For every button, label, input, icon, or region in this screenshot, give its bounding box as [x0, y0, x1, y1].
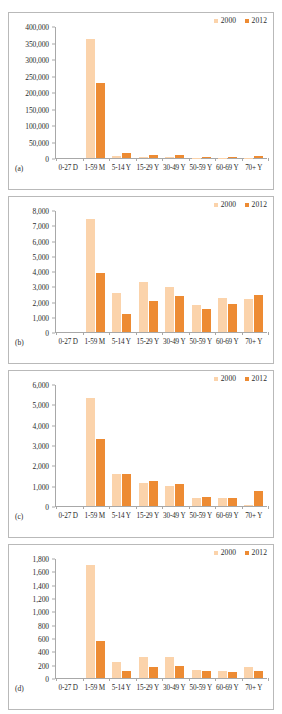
legend-swatch-icon: [245, 377, 249, 381]
x-axis-tick-mark: [189, 506, 190, 509]
y-axis-tick-label: 6,000: [33, 237, 49, 246]
chart-legend: 20002012: [214, 17, 267, 25]
bar-2012: [202, 671, 211, 678]
bar-groups: [56, 27, 267, 158]
x-axis-tick-mark: [162, 158, 163, 161]
chart-panel-c: 2000201201,0002,0003,0004,0005,0006,0000…: [8, 370, 274, 538]
x-axis-tick-mark: [83, 158, 84, 161]
x-axis-label: 60-69 Y: [214, 512, 241, 520]
legend-label: 2000: [221, 17, 236, 25]
bar-groups: [56, 559, 267, 678]
bar-2012: [149, 301, 158, 332]
x-axis-labels: 0-27 D1-59 M5-14 Y15-29 Y30-49 Y50-59 Y6…: [55, 164, 267, 172]
legend-swatch-icon: [214, 19, 218, 23]
y-axis-tick-label: 2,000: [33, 298, 49, 307]
bar-group: [109, 385, 135, 506]
bar-group: [241, 27, 267, 158]
y-axis-tick-label: 1,400: [33, 581, 49, 590]
bar-group: [214, 27, 240, 158]
plot-area: [55, 385, 267, 507]
x-axis-ticks: [56, 158, 267, 162]
x-axis-tick-mark: [215, 332, 216, 335]
bar-2012: [96, 83, 105, 158]
bar-2012: [175, 484, 184, 506]
y-axis-tick-label: 150,000: [25, 105, 49, 114]
bar-2000: [192, 305, 201, 332]
bar-2000: [112, 474, 121, 506]
x-axis-tick-mark: [136, 506, 137, 509]
legend-label: 2012: [252, 549, 267, 557]
bar-group: [56, 385, 82, 506]
x-axis-label: 60-69 Y: [214, 684, 241, 692]
y-axis-tick-label: 50,000: [29, 138, 49, 147]
x-axis-label: 15-29 Y: [135, 338, 162, 346]
x-axis-label: 50-59 Y: [188, 512, 215, 520]
bar-2012: [96, 641, 105, 678]
plot-area: [55, 559, 267, 679]
x-axis-tick-mark: [109, 506, 110, 509]
bar-2000: [139, 483, 148, 506]
y-axis-tick-label: 1,200: [33, 595, 49, 604]
bar-group: [162, 27, 188, 158]
bar-group: [56, 559, 82, 678]
y-axis-tick-label: 2,000: [33, 462, 49, 471]
y-axis-tick-label: 0: [45, 329, 49, 338]
bar-group: [241, 211, 267, 332]
y-axis-tick-label: 5,000: [33, 401, 49, 410]
x-axis-label: 0-27 D: [55, 684, 82, 692]
bar-2000: [218, 671, 227, 678]
bar-2012: [96, 439, 105, 507]
x-axis-labels: 0-27 D1-59 M5-14 Y15-29 Y30-49 Y50-59 Y6…: [55, 684, 267, 692]
y-axis-tick-label: 1,000: [33, 608, 49, 617]
bar-groups: [56, 211, 267, 332]
x-axis-tick-mark: [56, 506, 57, 509]
y-axis-tick-label: 3,000: [33, 442, 49, 451]
x-axis-tick-mark: [268, 678, 269, 681]
x-axis-label: 5-14 Y: [108, 512, 135, 520]
bar-group: [109, 27, 135, 158]
bar-2000: [112, 293, 121, 332]
bar-group: [82, 385, 108, 506]
x-axis-label: 30-49 Y: [161, 684, 188, 692]
x-axis-tick-mark: [136, 332, 137, 335]
bar-group: [162, 559, 188, 678]
legend-entry-2000: 2000: [214, 17, 236, 25]
legend-entry-2012: 2012: [245, 17, 267, 25]
x-axis-tick-mark: [83, 332, 84, 335]
x-axis-tick-mark: [109, 332, 110, 335]
bar-2012: [228, 304, 237, 332]
y-axis: 01,0002,0003,0004,0005,0006,0007,0008,00…: [11, 211, 51, 333]
x-axis-tick-mark: [109, 678, 110, 681]
plot-area: [55, 27, 267, 159]
bar-group: [188, 559, 214, 678]
chart-panel-b: 2000201201,0002,0003,0004,0005,0006,0007…: [8, 196, 274, 364]
y-axis-tick-label: 0: [45, 675, 49, 684]
figure-page: 20002012050,000100,000150,000200,000250,…: [0, 12, 282, 714]
x-axis-tick-mark: [83, 506, 84, 509]
bar-group: [56, 27, 82, 158]
x-axis-label: 70+ Y: [241, 684, 268, 692]
chart-legend: 20002012: [214, 549, 267, 557]
y-axis-tick-label: 1,000: [33, 482, 49, 491]
y-axis-tick-label: 200: [38, 661, 49, 670]
x-axis-tick-mark: [162, 678, 163, 681]
y-axis-tick-label: 4,000: [33, 421, 49, 430]
y-axis-tick-label: 1,800: [33, 555, 49, 564]
panel-tag: (b): [15, 338, 24, 347]
x-axis-tick-mark: [268, 332, 269, 335]
x-axis-tick-mark: [136, 678, 137, 681]
x-axis-tick-mark: [215, 158, 216, 161]
x-axis-tick-mark: [242, 678, 243, 681]
x-axis-tick-mark: [268, 158, 269, 161]
x-axis-label: 1-59 M: [82, 164, 109, 172]
x-axis-tick-mark: [56, 678, 57, 681]
legend-swatch-icon: [245, 203, 249, 207]
y-axis-tick-label: 4,000: [33, 268, 49, 277]
bar-2000: [192, 670, 201, 678]
y-axis-tick-label: 0: [45, 155, 49, 164]
bar-groups: [56, 385, 267, 506]
legend-entry-2000: 2000: [214, 375, 236, 383]
bar-2000: [165, 657, 174, 678]
x-axis-tick-mark: [189, 678, 190, 681]
bar-2000: [112, 662, 121, 678]
